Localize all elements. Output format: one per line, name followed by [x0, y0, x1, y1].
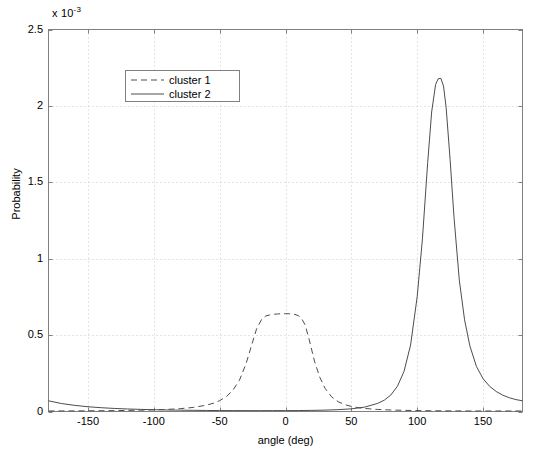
- series-line-cluster-2: [49, 78, 523, 410]
- legend[interactable]: cluster 1 cluster 2: [126, 71, 240, 102]
- y-axis-tick-label: 2.5: [3, 23, 43, 35]
- y-axis-tick-label: 0.5: [3, 328, 43, 340]
- axes-box: [49, 30, 523, 412]
- legend-label-cluster-2: cluster 2: [169, 88, 211, 100]
- x-axis-tick-label: 50: [345, 415, 357, 427]
- plot-canvas: cluster 1 cluster 2: [0, 0, 541, 457]
- x-axis-tick-label: -100: [143, 415, 165, 427]
- horizontal-gridlines: [49, 107, 523, 336]
- x-axis-tick-label: -150: [77, 415, 99, 427]
- y-axis-tick-label: 1.5: [3, 175, 43, 187]
- x-axis-tick-label: 0: [282, 415, 288, 427]
- x-axis-tick-label: 100: [408, 415, 426, 427]
- x-axis-tick-label: -50: [212, 415, 228, 427]
- x-axis-tick-label: 150: [474, 415, 492, 427]
- series-line-cluster-1: [49, 314, 523, 411]
- legend-label-cluster-1: cluster 1: [169, 74, 211, 86]
- chart-figure: x 10-3 Probability angle (deg) cluster 1…: [0, 0, 541, 457]
- y-axis-tick-label: 2: [3, 99, 43, 111]
- y-axis-tick-label: 0: [3, 405, 43, 417]
- y-axis-ticks: [49, 31, 523, 413]
- y-axis-tick-label: 1: [3, 252, 43, 264]
